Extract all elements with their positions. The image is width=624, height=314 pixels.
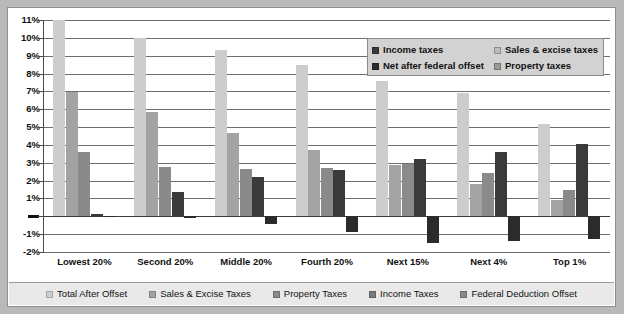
y-axis-tick xyxy=(38,56,44,57)
x-axis-tick-label: Next 15% xyxy=(367,256,448,268)
bar xyxy=(91,214,103,217)
legend-swatch-icon xyxy=(273,291,280,298)
bar-group xyxy=(53,20,116,252)
legend-swatch-icon xyxy=(46,291,53,298)
y-axis-tick xyxy=(38,163,44,164)
chart-panel: 11%10%9%8%7%6%5%4%3%2%1%-1%-2% Lowest 20… xyxy=(7,7,616,307)
bar xyxy=(172,192,184,216)
bar xyxy=(333,170,345,216)
bar-group xyxy=(215,20,278,252)
legend-swatch-icon xyxy=(369,291,376,298)
x-axis-tick-label: Fourth 20% xyxy=(287,256,368,268)
inner-legend-row: Income taxes Sales & excise taxes xyxy=(372,42,599,58)
legend-swatch-icon xyxy=(372,63,379,70)
legend-swatch-icon xyxy=(460,291,467,298)
bottom-legend-label: Total After Offset xyxy=(57,289,127,299)
bar xyxy=(538,124,550,217)
legend-swatch-icon xyxy=(494,63,501,70)
bar xyxy=(265,216,277,224)
y-axis-tick xyxy=(38,181,44,182)
inner-legend-item-property-taxes: Property taxes xyxy=(494,61,571,71)
bar xyxy=(227,133,239,216)
inner-legend-item-net-after-federal-offset: Net after federal offset xyxy=(372,61,494,71)
bar xyxy=(414,159,426,216)
bar-group xyxy=(296,20,359,252)
inner-legend-row: Net after federal offset Property taxes xyxy=(372,58,599,74)
bottom-legend-item[interactable]: Income Taxes xyxy=(369,289,438,299)
inner-legend: Income taxes Sales & excise taxes Net af… xyxy=(367,38,604,76)
bar xyxy=(252,177,264,216)
bottom-legend-label: Property Taxes xyxy=(284,289,347,299)
x-axis-tick-label: Next 4% xyxy=(448,256,529,268)
inner-legend-item-sales-excise-taxes: Sales & excise taxes xyxy=(494,45,598,55)
bar xyxy=(308,150,320,216)
bottom-legend-label: Federal Deduction Offset xyxy=(471,289,576,299)
bar xyxy=(134,38,146,216)
bar xyxy=(296,65,308,217)
bar xyxy=(563,190,575,217)
bar xyxy=(576,144,588,216)
bar xyxy=(66,92,78,216)
bar xyxy=(402,164,414,217)
bottom-legend-item[interactable]: Property Taxes xyxy=(273,289,347,299)
x-axis-category-labels: Lowest 20%Second 20%Middle 20%Fourth 20%… xyxy=(44,256,610,270)
y-axis-tick xyxy=(38,109,44,110)
bar xyxy=(215,50,227,216)
y-axis-tick xyxy=(38,234,44,235)
bar xyxy=(53,20,65,216)
bottom-legend-label: Income Taxes xyxy=(380,289,438,299)
bar xyxy=(346,216,358,232)
y-axis-tick xyxy=(38,252,44,253)
y-axis-tick xyxy=(38,216,44,217)
bar-group xyxy=(134,20,197,252)
x-axis-tick-label: Top 1% xyxy=(529,256,610,268)
bar xyxy=(389,165,401,216)
y-axis-tick xyxy=(38,20,44,21)
bar xyxy=(427,216,439,243)
x-axis-tick-label: Second 20% xyxy=(125,256,206,268)
bar xyxy=(508,216,520,241)
y-axis-tick xyxy=(38,145,44,146)
bar xyxy=(184,216,196,218)
bar xyxy=(103,216,115,217)
bar xyxy=(146,112,158,216)
inner-legend-label: Net after federal offset xyxy=(383,61,484,71)
bar xyxy=(457,93,469,216)
bottom-legend-item[interactable]: Sales & Excise Taxes xyxy=(149,289,251,299)
y-axis-tick xyxy=(38,127,44,128)
inner-legend-item-income-taxes: Income taxes xyxy=(372,45,494,55)
y-axis-tick xyxy=(38,74,44,75)
bar xyxy=(159,167,171,216)
y-axis-tick xyxy=(38,38,44,39)
bar xyxy=(78,152,90,216)
bar xyxy=(321,168,333,216)
bar xyxy=(376,81,388,217)
legend-swatch-icon xyxy=(149,291,156,298)
bar xyxy=(240,169,252,216)
x-axis-tick-label: Lowest 20% xyxy=(44,256,125,268)
bottom-legend: Total After OffsetSales & Excise TaxesPr… xyxy=(9,282,614,305)
bottom-legend-item[interactable]: Total After Offset xyxy=(46,289,127,299)
inner-legend-label: Income taxes xyxy=(383,45,443,55)
gridline xyxy=(44,252,610,253)
legend-swatch-icon xyxy=(372,47,379,54)
legend-swatch-icon xyxy=(494,47,501,54)
bar xyxy=(551,200,563,216)
bottom-legend-item[interactable]: Federal Deduction Offset xyxy=(460,289,576,299)
bar xyxy=(495,152,507,216)
inner-legend-label: Property taxes xyxy=(505,61,571,71)
inner-legend-label: Sales & excise taxes xyxy=(505,45,598,55)
bar xyxy=(588,216,600,239)
y-axis-tick xyxy=(38,198,44,199)
bar xyxy=(482,173,494,216)
chart-outer-frame: 11%10%9%8%7%6%5%4%3%2%1%-1%-2% Lowest 20… xyxy=(0,0,624,314)
bar xyxy=(470,184,482,216)
y-axis-tick xyxy=(38,91,44,92)
x-axis-tick-label: Middle 20% xyxy=(206,256,287,268)
y-axis-labels: 11%10%9%8%7%6%5%4%3%2%1%-1%-2% xyxy=(8,20,40,252)
bottom-legend-label: Sales & Excise Taxes xyxy=(160,289,251,299)
